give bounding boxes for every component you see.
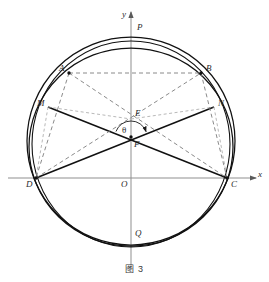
- segment-MD: [36, 107, 48, 178]
- segment-NC: [214, 107, 227, 178]
- point-label-f: F: [134, 140, 140, 149]
- point-label-b: B: [206, 64, 212, 73]
- angle-theta-label: θ: [122, 126, 126, 135]
- point-marker-b: [199, 71, 202, 74]
- point-label-q: Q: [135, 229, 142, 238]
- point-label-p: P: [137, 23, 143, 32]
- segment-EN: [131, 107, 214, 119]
- point-marker-d: [34, 176, 37, 179]
- point-label-d: D: [26, 180, 33, 189]
- x-axis-label: x: [258, 170, 262, 179]
- point-label-e: E: [135, 109, 141, 118]
- y-axis-label: y: [122, 10, 126, 19]
- figure-caption: 图 3: [0, 262, 269, 275]
- point-marker-a: [67, 71, 70, 74]
- point-label-n: N: [218, 99, 224, 108]
- point-label-a: A: [59, 64, 65, 73]
- point-label-c: C: [231, 180, 237, 189]
- point-marker-f: [129, 135, 132, 138]
- figure-container: PABMNEFDCQ x y O θ 图 3: [0, 0, 269, 282]
- segment-ME: [48, 107, 131, 119]
- origin-label: O: [121, 180, 128, 189]
- segment-DN: [36, 107, 214, 178]
- point-label-m: M: [37, 99, 45, 108]
- segment-DB: [36, 73, 201, 178]
- point-marker-c: [225, 176, 228, 179]
